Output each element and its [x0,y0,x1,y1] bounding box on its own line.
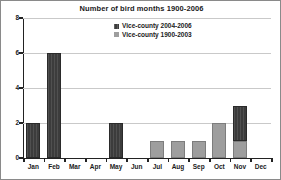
x-axis-tick-mark [209,158,211,162]
bar-segment-historic[interactable] [192,141,206,159]
bar-slot [23,18,44,158]
bar-stack[interactable] [212,123,226,158]
bar-segment-recent[interactable] [109,123,123,158]
bar-slot [188,18,209,158]
y-axis-tick-label: 2 [3,120,19,127]
x-axis-tick-mark [23,158,25,162]
bar-slot [85,18,106,158]
bar-stack[interactable] [192,141,206,159]
legend-item-historic: Vice-county 1900-2003 [114,32,192,39]
x-axis-tick-mark [147,158,149,162]
chart-figure: Number of bird months 1900-2006 02468 Ja… [0,0,281,180]
bar-segment-historic[interactable] [150,141,164,159]
bar-slot [106,18,127,158]
bar-slot [64,18,85,158]
bar-segment-historic[interactable] [212,123,226,158]
x-axis-tick-mark [271,158,273,162]
bar-stack[interactable] [171,141,185,159]
bar-slot [209,18,230,158]
x-axis-tick-mark [106,158,108,162]
x-axis-tick-mark [168,158,170,162]
x-axis-tick-mark [85,158,87,162]
legend-swatch-icon-recent [114,24,119,29]
bar-segment-historic[interactable] [233,141,247,159]
bar-stack[interactable] [150,141,164,159]
y-axis-tick-label: 8 [3,15,19,22]
y-axis-tick-label: 0 [3,155,19,162]
x-axis-tick-mark [250,158,252,162]
y-axis-tick-label: 4 [3,85,19,92]
y-axis-tick-label: 6 [3,50,19,57]
bar-slot [44,18,65,158]
bar-stack[interactable] [109,123,123,158]
x-axis-tick-label: Dec [248,164,274,171]
x-axis-tick-mark [64,158,66,162]
x-axis-tick-mark [230,158,232,162]
bar-slot [168,18,189,158]
bar-slot [126,18,147,158]
bar-stack[interactable] [26,123,40,158]
chart-legend: Vice-county 2004-2006 Vice-county 1900-2… [114,23,192,38]
legend-label-historic: Vice-county 1900-2003 [122,32,192,39]
bar-segment-recent[interactable] [26,123,40,158]
bar-stack[interactable] [233,106,247,159]
bar-series-container [23,18,271,158]
x-axis-tick-mark [44,158,46,162]
x-axis-tick-mark [126,158,128,162]
legend-swatch-icon-historic [114,32,119,37]
legend-label-recent: Vice-county 2004-2006 [122,23,192,30]
x-axis-tick-mark [188,158,190,162]
bar-slot [250,18,271,158]
bar-slot [230,18,251,158]
bar-slot [147,18,168,158]
legend-item-recent: Vice-county 2004-2006 [114,23,192,30]
bar-segment-historic[interactable] [171,141,185,159]
bar-stack[interactable] [47,53,61,158]
bar-segment-recent[interactable] [233,106,247,141]
bar-segment-recent[interactable] [47,53,61,158]
